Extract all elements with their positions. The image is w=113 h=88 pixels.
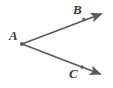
ray-ac-group <box>22 44 100 74</box>
vertex-label-a: A <box>9 29 18 42</box>
point-b-marker <box>82 18 85 21</box>
ray-ab-group <box>22 14 101 44</box>
vertex-label-c: C <box>69 67 78 80</box>
point-c-marker <box>80 65 83 68</box>
geometry-canvas <box>0 0 113 88</box>
ray-ac <box>22 44 100 74</box>
ray-ab <box>22 14 101 44</box>
geometry-figure: A B C <box>0 0 113 88</box>
vertex-a-marker <box>20 42 24 46</box>
vertex-label-b: B <box>73 3 82 16</box>
